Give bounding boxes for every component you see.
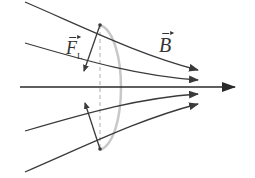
force-symbol: F xyxy=(66,38,77,59)
diagram-canvas xyxy=(0,0,255,178)
magnetic-field-lines xyxy=(20,2,235,172)
field-symbol: B xyxy=(159,34,171,57)
field-line-2 xyxy=(25,43,198,80)
force-subscript: L xyxy=(77,51,83,61)
field-label: B xyxy=(159,34,171,57)
force-label: FL xyxy=(66,38,83,61)
field-line-4 xyxy=(25,94,198,131)
